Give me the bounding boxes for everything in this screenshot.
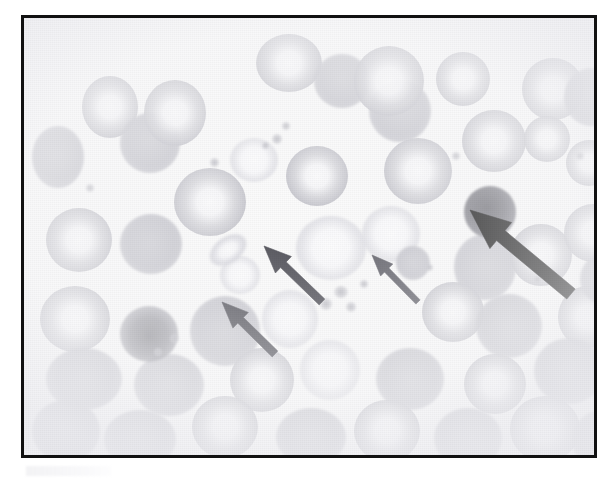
red-blood-cell (32, 126, 84, 188)
caption-remnant (26, 466, 112, 476)
red-blood-cell (144, 80, 206, 146)
red-blood-cell (476, 294, 542, 358)
platelet-speck (346, 302, 356, 312)
red-blood-cell (32, 400, 100, 455)
platelet-speck (534, 276, 541, 283)
red-blood-cell (434, 408, 502, 455)
platelet-speck (272, 134, 282, 144)
red-blood-cell (510, 224, 572, 286)
red-blood-cell (286, 146, 348, 206)
red-blood-cell (422, 282, 484, 342)
figure-page (0, 0, 613, 481)
red-blood-cell (296, 216, 366, 280)
red-blood-cell (174, 168, 246, 236)
red-blood-cell (104, 410, 176, 455)
platelet-clump (120, 306, 178, 362)
platelet-speck (86, 184, 94, 192)
platelet-speck (576, 152, 584, 160)
platelet-speck (334, 286, 348, 298)
red-blood-cell (300, 340, 360, 400)
red-blood-cell (524, 116, 570, 162)
red-blood-cell (436, 52, 490, 106)
dark-nucleated-cell (464, 186, 516, 238)
red-blood-cell (354, 400, 420, 455)
red-blood-cell (510, 396, 580, 455)
red-blood-cell (384, 138, 452, 204)
red-blood-cell (120, 214, 182, 274)
red-blood-cell (134, 354, 204, 416)
platelet-speck (360, 280, 368, 288)
platelet-speck (170, 334, 179, 343)
red-blood-cell (230, 138, 278, 182)
platelet-speck (320, 298, 332, 310)
red-blood-cell (534, 338, 594, 404)
blood-smear-image (24, 18, 594, 455)
red-blood-cell (462, 110, 526, 172)
platelet-speck (426, 264, 433, 271)
platelet-speck (154, 348, 162, 356)
micrograph-frame (21, 15, 597, 458)
red-blood-cell (192, 396, 258, 455)
red-blood-cell (464, 354, 526, 414)
red-blood-cell (256, 34, 322, 92)
red-blood-cell (46, 208, 112, 272)
red-blood-cell (354, 46, 424, 116)
red-blood-cell (566, 140, 594, 186)
red-blood-cell (40, 286, 110, 352)
platelet-speck (282, 122, 290, 130)
platelet-speck (262, 142, 269, 149)
red-blood-cell (396, 246, 430, 280)
red-blood-cell (276, 408, 346, 455)
platelet-speck (452, 152, 460, 160)
platelet-speck (210, 158, 219, 167)
red-blood-cell (262, 290, 318, 348)
